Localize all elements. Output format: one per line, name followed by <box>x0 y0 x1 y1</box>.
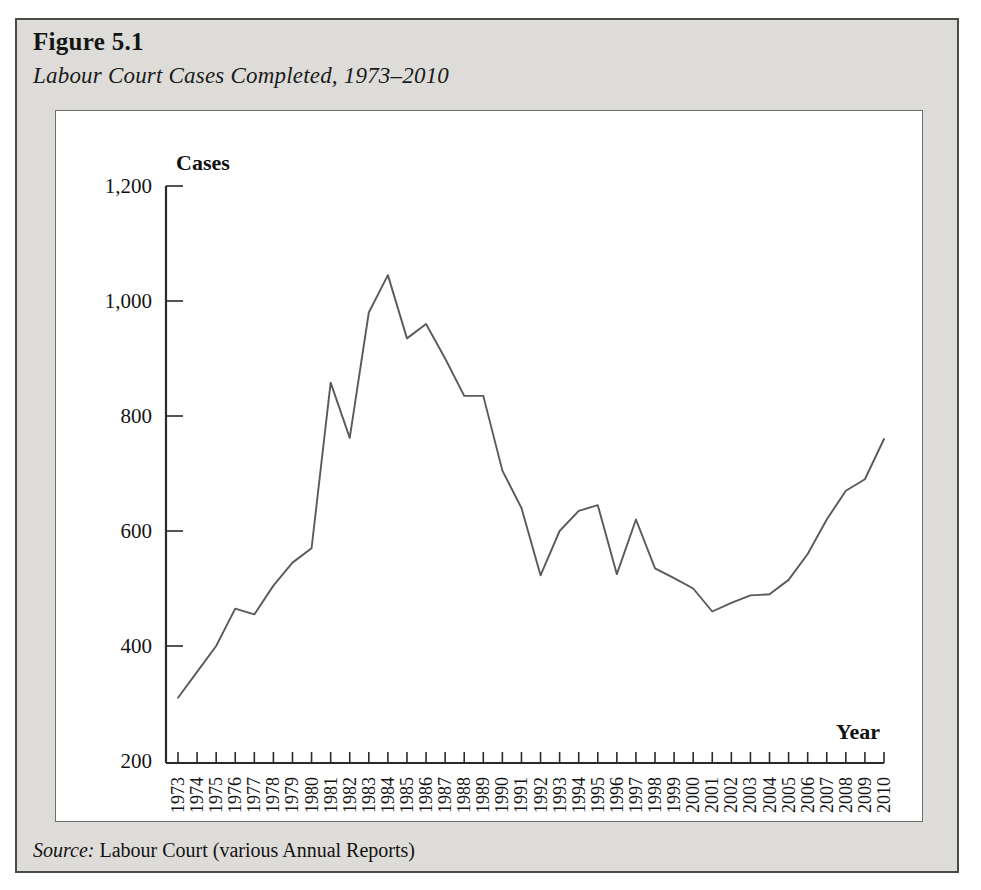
x-tick-label: 2006 <box>798 777 818 813</box>
x-tick-label: 1978 <box>263 777 283 813</box>
x-tick-label: 1983 <box>359 777 379 813</box>
x-tick-label: 1998 <box>645 777 665 813</box>
x-tick-label: 1976 <box>225 777 245 813</box>
x-tick-label: 2003 <box>740 777 760 813</box>
x-tick-label: 2007 <box>817 777 837 813</box>
x-tick-label: 1992 <box>531 777 551 813</box>
x-tick-label: 1989 <box>473 777 493 813</box>
x-tick-label: 1985 <box>397 777 417 813</box>
x-tick-label: 1980 <box>302 777 322 813</box>
y-axis-title: Cases <box>176 150 230 175</box>
x-tick-label: 1977 <box>244 777 264 813</box>
figure-frame: Figure 5.1 Labour Court Cases Completed,… <box>15 18 959 873</box>
figure-caption: Labour Court Cases Completed, 1973–2010 <box>33 62 933 90</box>
axis-titles: CasesYear <box>176 150 880 744</box>
figure-header: Figure 5.1 Labour Court Cases Completed,… <box>33 28 933 89</box>
x-tick-label: 2008 <box>836 777 856 813</box>
figure-number-label: Figure 5.1 <box>33 28 933 57</box>
y-tick-label: 1,200 <box>105 174 152 198</box>
x-tick-label: 2004 <box>760 777 780 813</box>
x-tick-label: 1990 <box>492 777 512 813</box>
line-chart: 2004006008001,0001,200 19731974197519761… <box>56 111 922 821</box>
x-tick-label: 2005 <box>779 777 799 813</box>
x-tick-label: 2002 <box>721 777 741 813</box>
source-label: Source: <box>33 839 94 861</box>
x-tick-label: 1999 <box>664 777 684 813</box>
x-tick-label: 1991 <box>511 777 531 813</box>
x-tick-label: 2010 <box>874 777 894 813</box>
x-tick-label: 2001 <box>702 777 722 813</box>
x-tick-label: 1997 <box>626 777 646 813</box>
x-tick-label: 1981 <box>321 777 341 813</box>
x-tick-label: 1986 <box>416 777 436 813</box>
x-tick-label: 1975 <box>206 777 226 813</box>
x-tick-label: 1973 <box>168 777 188 813</box>
x-tick-label: 2009 <box>855 777 875 813</box>
x-tick-label: 1987 <box>435 777 455 813</box>
x-tick-label: 1993 <box>550 777 570 813</box>
source-text: Labour Court (various Annual Reports) <box>99 839 415 861</box>
cases-line <box>178 275 884 698</box>
x-tick-label: 1979 <box>282 777 302 813</box>
x-tick-label: 1995 <box>588 777 608 813</box>
y-tick-label: 800 <box>121 404 153 428</box>
source-note: Source: Labour Court (various Annual Rep… <box>33 839 415 862</box>
y-axis: 2004006008001,0001,200 <box>105 174 183 773</box>
x-axis-title: Year <box>836 719 880 744</box>
x-tick-label: 2000 <box>683 777 703 813</box>
data-series-cases <box>178 275 884 698</box>
y-tick-label: 1,000 <box>105 289 152 313</box>
x-tick-label: 1984 <box>378 777 398 813</box>
x-tick-label: 1982 <box>340 777 360 813</box>
x-axis: 1973197419751976197719781979198019811982… <box>166 752 894 813</box>
x-tick-label: 1994 <box>569 777 589 813</box>
x-tick-label: 1996 <box>607 777 627 813</box>
y-tick-label: 600 <box>121 519 153 543</box>
y-tick-label: 200 <box>121 749 153 773</box>
x-tick-label: 1988 <box>454 777 474 813</box>
chart-plot-panel: 2004006008001,0001,200 19731974197519761… <box>55 110 923 822</box>
x-tick-label: 1974 <box>187 777 207 813</box>
y-tick-label: 400 <box>121 634 153 658</box>
